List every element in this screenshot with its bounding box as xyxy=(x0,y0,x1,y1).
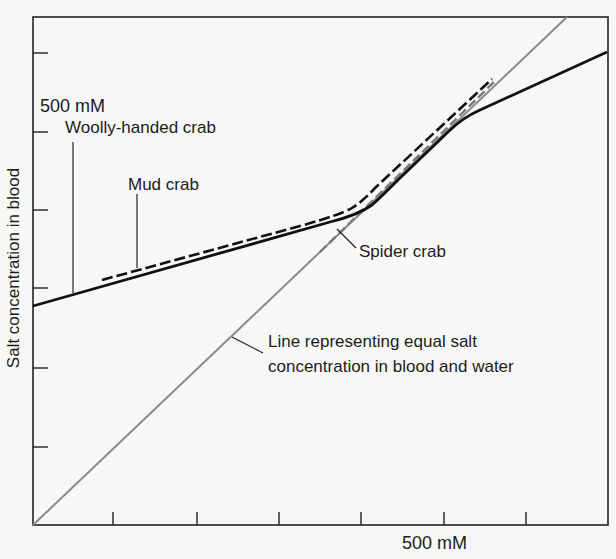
equal-line-leader xyxy=(232,337,263,353)
y-axis-title: Salt concentration in blood xyxy=(4,168,24,368)
leader-lines xyxy=(73,142,356,353)
woolly-handed-crab-label: Woolly-handed crab xyxy=(65,118,216,138)
equal-concentration-line xyxy=(33,17,567,525)
spider-leader xyxy=(337,229,356,248)
y-tick-label-500: 500 mM xyxy=(40,96,105,116)
x-tick-label-500: 500 mM xyxy=(402,533,467,553)
chart-canvas xyxy=(0,0,616,559)
plot-frame xyxy=(33,17,608,525)
spider-crab-label: Spider crab xyxy=(359,242,446,262)
x-axis-ticks xyxy=(113,512,526,525)
mud-crab-label: Mud crab xyxy=(128,175,199,195)
woolly-handed-crab-line xyxy=(33,52,607,306)
equal-line-label-1: Line representing equal salt xyxy=(268,332,477,352)
equal-line-label-2: concentration in blood and water xyxy=(268,357,514,377)
